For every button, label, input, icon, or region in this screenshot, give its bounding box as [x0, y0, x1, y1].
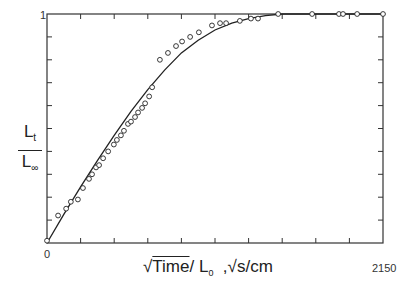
- data-point: [97, 163, 102, 168]
- data-point: [114, 138, 119, 143]
- fitted-curve: [47, 14, 383, 243]
- plot-frame: [47, 14, 383, 243]
- data-point: [355, 12, 360, 17]
- data-point: [119, 133, 124, 138]
- data-point: [68, 199, 73, 204]
- x-axis-label: √Time/ L0 ,√s/cm: [143, 257, 273, 278]
- data-point: [174, 44, 179, 49]
- data-point: [256, 16, 261, 21]
- data-point: [310, 12, 315, 17]
- data-point: [129, 119, 134, 124]
- figure-number: 2150: [372, 262, 396, 274]
- y-label-denominator: L: [22, 152, 31, 171]
- x-origin-label: 0: [44, 248, 50, 260]
- y-label-den-sub: ∞: [31, 163, 38, 174]
- data-point: [140, 105, 145, 110]
- y-top-label: 1: [40, 9, 46, 21]
- x-label-units: ,√s/cm: [213, 257, 272, 276]
- x-label-divisor: / L: [190, 257, 209, 276]
- data-point: [188, 35, 193, 40]
- data-point: [87, 176, 92, 181]
- data-point: [90, 172, 95, 177]
- sqrt-symbol: √: [143, 257, 152, 276]
- axis-ticks: [47, 14, 383, 243]
- data-point: [133, 115, 138, 120]
- data-point: [157, 57, 162, 62]
- data-point: [218, 21, 223, 26]
- data-point: [106, 149, 111, 154]
- data-point: [143, 101, 148, 106]
- data-point: [224, 21, 229, 26]
- data-point: [237, 18, 242, 23]
- data-point: [147, 94, 152, 99]
- data-point: [111, 142, 116, 147]
- data-point: [81, 186, 86, 191]
- y-axis-label: Lt L∞: [14, 123, 46, 178]
- data-point: [381, 12, 386, 17]
- data-point: [76, 197, 81, 202]
- data-point: [101, 156, 106, 161]
- chart-canvas: 0 1: [0, 0, 413, 285]
- data-point: [196, 30, 201, 35]
- data-points: [45, 12, 386, 244]
- data-point: [56, 213, 61, 218]
- y-label-numerator: L: [24, 122, 33, 141]
- data-point: [180, 39, 185, 44]
- data-point: [210, 23, 215, 28]
- data-point: [64, 206, 69, 211]
- data-point: [166, 51, 171, 56]
- data-point: [276, 12, 281, 17]
- data-point: [136, 110, 141, 115]
- data-point: [249, 16, 254, 21]
- data-point: [122, 128, 127, 133]
- y-label-num-sub: t: [33, 132, 36, 143]
- data-point: [341, 12, 346, 17]
- data-point: [45, 238, 50, 243]
- x-label-time: Time: [152, 257, 189, 276]
- data-point: [150, 85, 155, 90]
